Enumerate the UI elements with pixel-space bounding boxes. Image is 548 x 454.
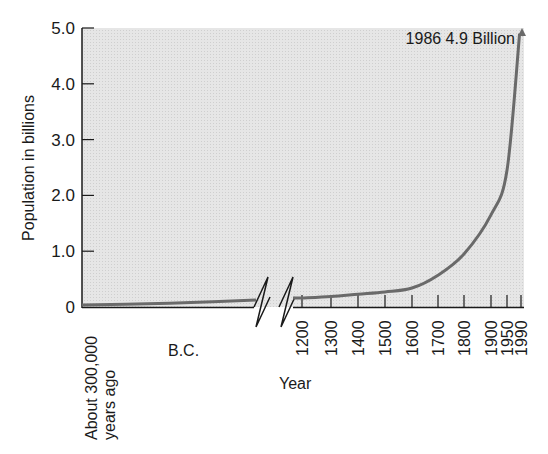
population-chart: 01.02.03.04.05.0 12001300140015001600170…	[0, 0, 548, 454]
x-axis-title: Year	[279, 375, 312, 392]
y-tick-label: 1.0	[51, 242, 75, 261]
x-tick-label: 1700	[430, 320, 447, 356]
plot-area	[82, 28, 524, 307]
x-tick-label: 1800	[456, 320, 473, 356]
x-tick-label: 1200	[294, 320, 311, 356]
y-tick-label: 3.0	[51, 131, 75, 150]
annotation-1986: 1986 4.9 Billion	[406, 30, 515, 47]
y-tick-label: 4.0	[51, 75, 75, 94]
x-tick-label: 1990	[513, 320, 530, 356]
start-label-line2: years ago	[101, 370, 118, 440]
x-tick-label: 1600	[404, 320, 421, 356]
y-tick-label: 0	[66, 298, 75, 317]
y-tick-label: 2.0	[51, 186, 75, 205]
y-axis-title: Population in billions	[20, 95, 37, 241]
x-tick-label: 1900	[483, 320, 500, 356]
start-label: About 300,000	[83, 336, 100, 440]
x-tick-label: 1500	[377, 320, 394, 356]
bc-label: B.C.	[168, 342, 199, 359]
y-tick-label: 5.0	[51, 19, 75, 38]
x-tick-label: 1400	[350, 320, 367, 356]
x-tick-label: 1300	[323, 320, 340, 356]
